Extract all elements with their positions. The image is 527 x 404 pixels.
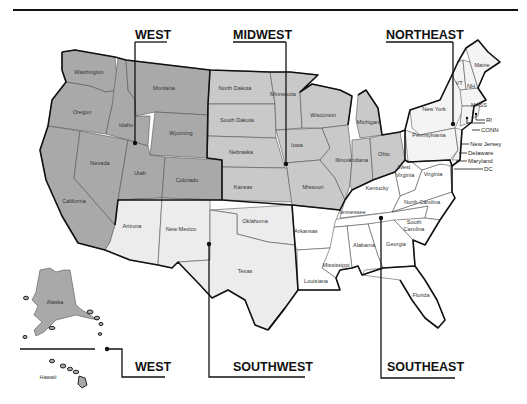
- label-oregon: Oregon: [73, 109, 92, 115]
- label-vt: VT: [455, 80, 463, 86]
- label-california: California: [62, 198, 87, 204]
- label-new-mexico: New Mexico: [166, 226, 196, 232]
- label-conn: CONN: [481, 127, 499, 133]
- label-utah: Utah: [134, 170, 146, 176]
- label-minnesota: Minnesota: [270, 91, 297, 97]
- label-missouri: Missouri: [303, 184, 324, 190]
- label-nh: NH: [467, 83, 475, 89]
- label-texas: Texas: [238, 268, 253, 274]
- region-label-west-insets: WEST: [135, 360, 171, 374]
- label-nebraska: Nebraska: [229, 149, 254, 155]
- label-wisconsin: Wisconsin: [310, 112, 336, 118]
- region-label-southwest: SOUTHWEST: [233, 360, 313, 374]
- label-mississippi: Mississippi: [322, 262, 349, 268]
- label-alabama: Alabama: [353, 242, 376, 248]
- label-arizona: Arizona: [123, 223, 143, 229]
- label-wyoming: Wyoming: [169, 130, 192, 136]
- region-label-midwest: MIDWEST: [233, 28, 292, 42]
- label-hawaii: Hawaii: [40, 374, 57, 380]
- label-south-carolina-1: South: [407, 219, 422, 225]
- label-dc: DC: [484, 166, 493, 172]
- label-florida: Florida: [412, 292, 430, 298]
- label-new-jersey: New Jersey: [470, 141, 501, 147]
- label-alaska: Alaska: [47, 299, 65, 305]
- state-alaska[interactable]: [32, 268, 98, 336]
- label-washington: Washington: [74, 69, 103, 75]
- state-florida[interactable]: [362, 266, 445, 328]
- label-iowa: Iowa: [291, 142, 304, 148]
- label-colorado: Colorado: [176, 177, 199, 183]
- label-louisiana: Louisiana: [304, 278, 329, 284]
- label-south-dakota: South Dakota: [220, 117, 255, 123]
- label-arkansas: Arkansas: [294, 228, 318, 234]
- label-maryland: Maryland: [468, 158, 493, 164]
- label-north-carolina: North Carolina: [404, 199, 441, 205]
- label-illinois: Illinois: [335, 157, 351, 163]
- region-label-northeast: NORTHEAST: [386, 28, 464, 42]
- label-nevada: Nevada: [90, 160, 110, 166]
- label-montana: Montana: [153, 85, 176, 91]
- label-north-dakota: North Dakota: [219, 85, 253, 91]
- label-idaho: Idaho: [119, 122, 133, 128]
- label-oklahoma: Oklahoma: [242, 218, 268, 224]
- state-wisconsin[interactable]: [300, 84, 352, 128]
- label-maine: Maine: [474, 62, 489, 68]
- label-georgia: Georgia: [386, 241, 407, 247]
- region-label-west: WEST: [135, 28, 171, 42]
- region-label-southeast: SOUTHEAST: [387, 360, 464, 374]
- state-new-mexico[interactable]: [158, 198, 210, 268]
- label-kansas: Kansas: [234, 184, 253, 190]
- label-west-virginia-2: Virginia: [396, 172, 415, 178]
- label-west-virginia-1: West: [398, 164, 411, 170]
- label-tennessee: Tennessee: [338, 209, 365, 215]
- label-mass: MASS: [471, 102, 487, 108]
- label-kentucky: Kentucky: [365, 185, 388, 191]
- label-indiana: Indiana: [350, 157, 369, 163]
- label-ohio: Ohio: [378, 151, 390, 157]
- us-regions-map: WEST MIDWEST NORTHEAST SOUTHWEST SOUTHEA…: [0, 0, 527, 404]
- label-ri: RI: [486, 117, 492, 123]
- label-virginia: Virginia: [424, 171, 443, 177]
- region-southwest: [105, 198, 298, 330]
- label-michigan: Michigan: [357, 119, 379, 125]
- label-delaware: Delaware: [468, 150, 494, 156]
- label-pennsylvania: Pennsylvania: [412, 132, 446, 138]
- label-south-carolina-2: Carolina: [404, 226, 426, 232]
- state-kansas[interactable]: [222, 167, 292, 202]
- callout-west-insets: WEST: [20, 347, 171, 377]
- label-new-york: New York: [422, 106, 446, 112]
